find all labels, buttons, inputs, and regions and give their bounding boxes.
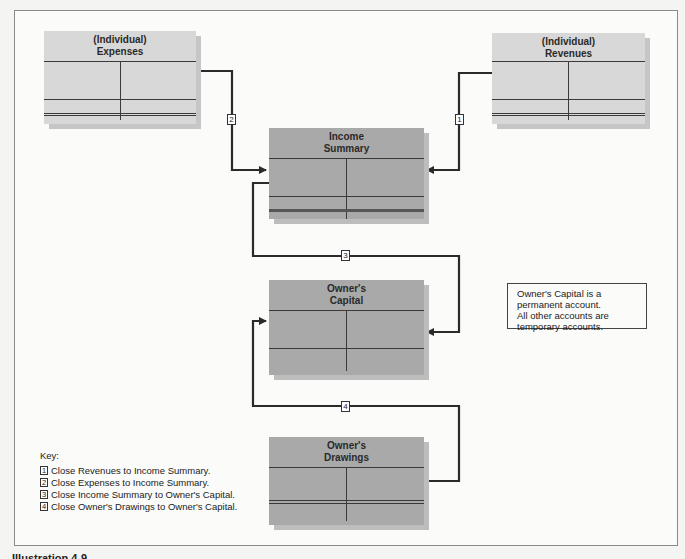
t-account-body: Owner's Capital — [269, 280, 424, 375]
account-expenses: (Individual) Expenses — [44, 31, 196, 124]
t-account-rule — [44, 113, 196, 114]
account-income-summary: Income Summary — [269, 128, 424, 219]
account-title: Owner's Capital — [269, 283, 424, 307]
t-account-rule — [44, 99, 196, 100]
note-line: permanent account. — [517, 299, 646, 310]
account-title-line1: (Individual) — [492, 36, 645, 48]
account-revenues: (Individual) Revenues — [492, 33, 645, 124]
t-account-rule — [269, 196, 424, 197]
legend-text: Close Income Summary to Owner's Capital. — [51, 489, 235, 500]
t-account-body: (Individual) Revenues — [492, 33, 645, 124]
account-title-line2: Expenses — [44, 46, 196, 58]
t-account-rule — [44, 115, 196, 116]
note-line: Owner's Capital is a — [517, 288, 646, 299]
account-title-line2: Drawings — [269, 452, 424, 464]
t-account-divider — [346, 310, 347, 371]
t-account-rule — [492, 113, 645, 114]
t-account-divider — [568, 61, 569, 120]
step-label-3: 3 — [341, 250, 350, 261]
legend-step-number: 3 — [40, 490, 48, 499]
t-account-rule — [492, 99, 645, 100]
legend-item: 4 Close Owner's Drawings to Owner's Capi… — [40, 500, 237, 512]
account-title: Income Summary — [269, 131, 424, 155]
account-title-line1: (Individual) — [44, 34, 196, 46]
legend-text: Close Owner's Drawings to Owner's Capita… — [51, 501, 237, 512]
t-account-body: (Individual) Expenses — [44, 31, 196, 124]
note-line: temporary accounts. — [517, 321, 646, 332]
t-account-rule — [269, 209, 424, 212]
account-title-line1: Income — [269, 131, 424, 143]
account-title-line1: Owner's — [269, 283, 424, 295]
figure-caption: Illustration 4-9 — [12, 551, 87, 559]
legend-item: 3 Close Income Summary to Owner's Capita… — [40, 488, 237, 500]
t-account-rule — [492, 115, 645, 116]
step-label-2: 2 — [227, 114, 236, 125]
t-account-rule — [269, 348, 424, 349]
legend-item: 1 Close Revenues to Income Summary. — [40, 464, 237, 476]
legend-title: Key: — [40, 450, 237, 461]
account-title: Owner's Drawings — [269, 440, 424, 464]
t-account-body: Income Summary — [269, 128, 424, 219]
t-account-rule — [269, 500, 424, 501]
account-title-line1: Owner's — [269, 440, 424, 452]
step-label-1: 1 — [455, 114, 464, 125]
legend-key: Key: 1 Close Revenues to Income Summary.… — [40, 450, 237, 512]
account-title: (Individual) Expenses — [44, 34, 196, 58]
permanent-account-note: Owner's Capital is a permanent account. … — [507, 283, 647, 329]
account-title-line2: Revenues — [492, 48, 645, 60]
t-account-rule — [269, 503, 424, 504]
account-owners-capital: Owner's Capital — [269, 280, 424, 375]
legend-item: 2 Close Expenses to Income Summary. — [40, 476, 237, 488]
legend-step-number: 2 — [40, 478, 48, 487]
legend-step-number: 1 — [40, 466, 48, 475]
account-title: (Individual) Revenues — [492, 36, 645, 60]
legend-step-number: 4 — [40, 502, 48, 511]
legend-text: Close Revenues to Income Summary. — [51, 465, 210, 476]
legend-text: Close Expenses to Income Summary. — [51, 477, 209, 488]
t-account-divider — [120, 61, 121, 120]
t-account-divider — [346, 467, 347, 521]
t-account-body: Owner's Drawings — [269, 437, 424, 525]
account-owners-drawings: Owner's Drawings — [269, 437, 424, 525]
note-line: All other accounts are — [517, 310, 646, 321]
step-label-4: 4 — [341, 401, 350, 412]
account-title-line2: Summary — [269, 143, 424, 155]
account-title-line2: Capital — [269, 295, 424, 307]
